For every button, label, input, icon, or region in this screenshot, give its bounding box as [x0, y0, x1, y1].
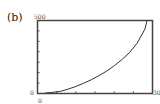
chart-plot-area: [0, 0, 160, 104]
data-curve: [45, 21, 147, 94]
plot-frame: [38, 21, 153, 94]
axis-ticks: [38, 21, 153, 94]
